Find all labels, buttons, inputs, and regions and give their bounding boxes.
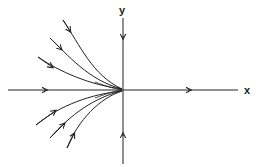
lower-curve-1 xyxy=(36,91,122,125)
y-axis-label: y xyxy=(119,4,126,16)
phase-portrait-diagram: y x xyxy=(0,0,260,167)
x-axis-label: x xyxy=(244,84,251,96)
upper-curve-3 xyxy=(63,20,122,89)
lower-curve-3 xyxy=(67,91,122,148)
